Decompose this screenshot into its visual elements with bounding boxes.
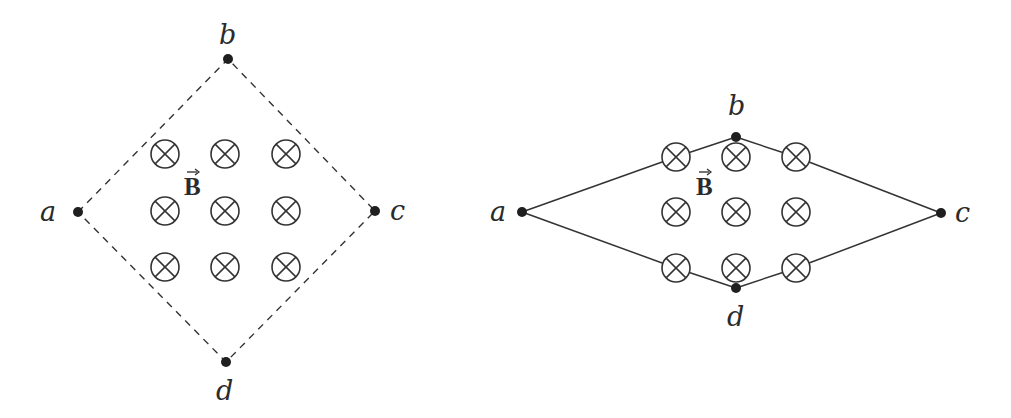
- b-field-into-page-icon: [211, 197, 239, 225]
- b-field-into-page-icon: [722, 254, 750, 282]
- wire-segment: [809, 213, 941, 263]
- b-field-into-page-icon: [782, 198, 810, 226]
- b-field-into-page-icon: [151, 197, 179, 225]
- node-b-dot: [731, 132, 741, 142]
- node-b-dot: [223, 54, 233, 64]
- b-field-into-page-icon: [722, 143, 750, 171]
- node-c-dot: [936, 208, 946, 218]
- node-d-label: d: [216, 375, 233, 406]
- node-b-label: b: [219, 19, 236, 50]
- wire-segment: [522, 212, 663, 263]
- b-field-into-page-icon: [662, 198, 690, 226]
- b-field-into-page-icon: [782, 254, 810, 282]
- b-field-into-page-icon: [211, 140, 239, 168]
- left-square-loop-diagram: Babcd: [40, 19, 405, 406]
- node-a-dot: [73, 207, 83, 217]
- node-d-dot: [221, 357, 231, 367]
- wire-segment: [809, 162, 941, 213]
- b-field-into-page-icon: [151, 140, 179, 168]
- b-field-into-page-icon: [662, 143, 690, 171]
- diagram-canvas: Babcd Babcd: [0, 0, 1011, 418]
- field-label-text: B: [696, 173, 713, 200]
- node-c-label: c: [955, 197, 970, 228]
- b-field-into-page-icon: [782, 143, 810, 171]
- node-d-dot: [731, 283, 741, 293]
- b-field-into-page-icon: [272, 197, 300, 225]
- b-field-into-page-icon: [211, 253, 239, 281]
- field-label-text: B: [184, 173, 201, 200]
- b-field-into-page-icon: [151, 253, 179, 281]
- b-field-into-page-icon: [662, 254, 690, 282]
- right-deformed-loop-diagram: Babcd: [490, 90, 970, 332]
- wire-segment: [522, 162, 663, 212]
- magnetic-field-vector-label: B: [696, 169, 713, 200]
- b-field-into-page-icon: [272, 140, 300, 168]
- node-c-dot: [370, 206, 380, 216]
- b-field-into-page-icon: [272, 253, 300, 281]
- b-field-into-page-icon: [722, 198, 750, 226]
- node-a-dot: [517, 207, 527, 217]
- node-a-label: a: [490, 196, 506, 227]
- magnetic-field-vector-label: B: [184, 169, 201, 200]
- node-d-label: d: [727, 301, 744, 332]
- node-c-label: c: [390, 195, 405, 226]
- node-a-label: a: [40, 196, 56, 227]
- node-b-label: b: [728, 90, 745, 121]
